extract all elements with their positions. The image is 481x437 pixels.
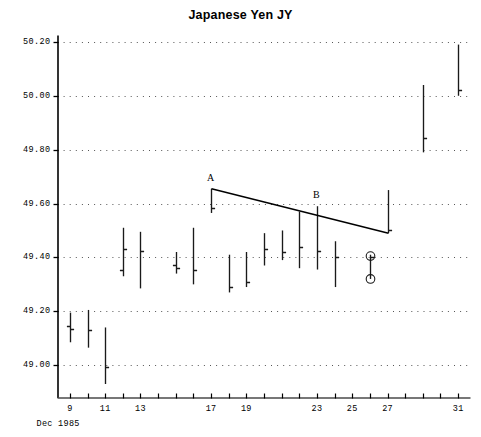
ohlc-bar [173,252,180,274]
x-axis-tick-label: 9 [58,404,82,414]
y-axis-tick-label: 49.00 [11,360,51,370]
gridlines [58,43,471,366]
ohlc-bar [283,230,287,260]
y-axis-tick-label: 49.20 [11,306,51,316]
axis-lines [58,36,471,399]
ohlc-bar [230,255,234,293]
y-axis-tick-label: 50.20 [11,37,51,47]
ohlc-bar [459,45,463,96]
ohlc-bar [106,327,110,384]
y-axis-tick-label: 50.00 [11,91,51,101]
ohlc-bar [389,190,393,233]
ohlc-bar [247,252,251,287]
chart-container: Japanese Yen JY 49.0049.2049.4049.6049.8… [0,0,481,437]
y-axis-tick-label: 49.40 [11,252,51,262]
plot-area [0,0,481,437]
ohlc-bar [265,233,269,265]
ohlc-bar [67,313,74,343]
x-axis-tick-label: 23 [305,404,329,414]
x-axis-tick-label: 31 [446,404,470,414]
y-axis-tick-label: 49.80 [11,145,51,155]
ohlc-bar [141,232,145,289]
trend-point-label-a: A [207,172,214,183]
trend-point-label-b: B [313,189,320,200]
x-axis-tick-label: 27 [376,404,400,414]
y-axis-tick-label: 49.60 [11,199,51,209]
x-axis-tick-label: 11 [93,404,117,414]
x-axis-tick-label: 17 [199,404,223,414]
ohlc-bar [194,228,198,285]
ohlc-bar [300,212,304,269]
ohlc-bar [212,189,216,213]
x-axis-caption: Dec 1985 [37,419,80,429]
ohlc-bar [120,228,127,276]
ohlc-bar [424,85,428,152]
x-axis-tick-label: 19 [234,404,258,414]
ohlc-bar [336,241,340,287]
ohlc-bars [67,45,462,384]
x-axis-tick-label: 13 [128,404,152,414]
x-axis-tick-label: 25 [340,404,364,414]
ohlc-bar [89,310,93,348]
